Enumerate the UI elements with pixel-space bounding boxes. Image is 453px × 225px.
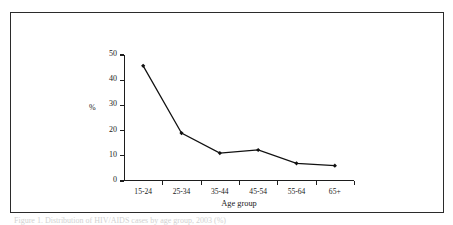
figure-frame: % 0 10 20 30 40 50 bbox=[10, 12, 444, 213]
x-cat-label-65plus: 65+ bbox=[329, 187, 341, 196]
figure-page: % 0 10 20 30 40 50 bbox=[0, 0, 453, 225]
y-tick-label-40: 40 bbox=[109, 74, 117, 84]
data-point-35-44 bbox=[218, 151, 222, 155]
y-tick-label-30: 30 bbox=[109, 99, 117, 109]
series-line bbox=[143, 66, 335, 166]
x-tick-2 bbox=[201, 181, 202, 185]
y-tick-label-50: 50 bbox=[109, 49, 117, 59]
x-tick-4 bbox=[277, 181, 278, 185]
y-tick-label-0: 0 bbox=[113, 175, 117, 185]
data-point-65+ bbox=[333, 164, 337, 168]
y-tick-label-20: 20 bbox=[109, 125, 117, 135]
data-point-45-54 bbox=[256, 148, 260, 152]
y-tick-label-10: 10 bbox=[109, 150, 117, 160]
x-cat-label-35-44: 35-44 bbox=[211, 187, 229, 196]
x-cat-label-15-24: 15-24 bbox=[134, 187, 152, 196]
plot-area: 0 10 20 30 40 50 15 bbox=[124, 55, 354, 181]
data-point-55-64 bbox=[294, 161, 298, 165]
x-tick-5 bbox=[316, 181, 317, 185]
x-cat-label-55-64: 55-64 bbox=[288, 187, 306, 196]
series-line-chart bbox=[124, 55, 354, 181]
x-cat-label-45-54: 45-54 bbox=[249, 187, 267, 196]
x-cat-label-25-34: 25-34 bbox=[173, 187, 191, 196]
x-tick-6 bbox=[354, 181, 355, 185]
y-axis-title: % bbox=[89, 103, 96, 113]
x-tick-3 bbox=[239, 181, 240, 185]
x-tick-1 bbox=[162, 181, 163, 185]
x-axis-title: Age group bbox=[124, 199, 354, 209]
figure-caption: Figure 1. Distribution of HIV/AIDS cases… bbox=[14, 216, 434, 225]
